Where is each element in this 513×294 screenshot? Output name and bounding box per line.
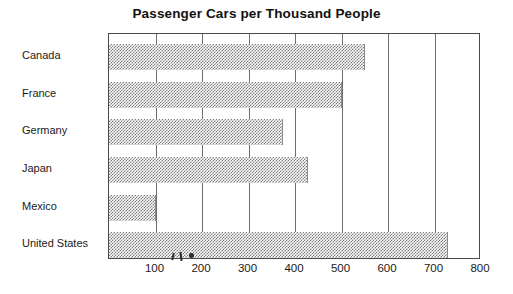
category-label-france: France [8,87,108,99]
x-tick-label-300: 300 [238,262,257,274]
x-tick-label-800: 800 [470,262,489,274]
x-axis-tick-labels: 100200300400500600700800 [108,262,480,284]
bar-row [109,44,480,70]
bar-row [109,195,480,221]
chart-title: Passenger Cars per Thousand People [0,6,513,21]
bar-row [109,157,480,183]
bar-japan [109,157,308,183]
category-label-germany: Germany [8,124,108,136]
x-tick-label-100: 100 [145,262,164,274]
bar-canada [109,44,365,70]
category-label-united-states: United States [8,237,108,249]
bar-row [109,82,480,108]
bar-france [109,82,342,108]
x-tick-label-200: 200 [191,262,210,274]
x-tick-label-700: 700 [424,262,443,274]
bar-row [109,232,480,258]
plot-area [108,33,480,259]
bar-row [109,119,480,145]
bar-united-states [109,232,448,258]
bar-chart-figure: Passenger Cars per Thousand People Canad… [0,0,513,294]
x-tick-label-600: 600 [377,262,396,274]
category-label-japan: Japan [8,162,108,174]
x-tick-label-500: 500 [331,262,350,274]
bar-germany [109,119,283,145]
category-label-mexico: Mexico [8,200,108,212]
category-label-canada: Canada [8,49,108,61]
bar-mexico [109,195,156,221]
category-axis-labels: CanadaFranceGermanyJapanMexicoUnited Sta… [8,33,108,259]
x-tick-label-400: 400 [284,262,303,274]
